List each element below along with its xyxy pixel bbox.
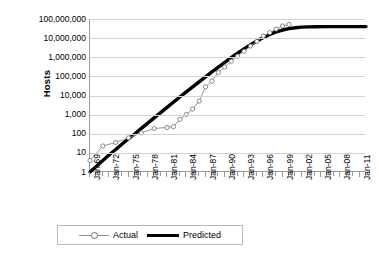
chart-legend: Actual Predicted bbox=[57, 225, 243, 245]
legend-actual-swatch-icon bbox=[79, 231, 109, 240]
x-axis-tick-label: Jan-05 bbox=[324, 154, 333, 180]
x-axis-tick-label: Jan-02 bbox=[305, 154, 314, 180]
x-axis-tick-label: Jan-81 bbox=[170, 154, 179, 180]
legend-predicted-swatch-icon bbox=[147, 231, 179, 240]
x-axis-tick-label: Jan-69 bbox=[93, 154, 102, 180]
x-axis-tick-label: Jan-08 bbox=[343, 154, 352, 180]
x-axis-tick-label: Jan-99 bbox=[286, 154, 295, 180]
legend-predicted-label: Predicted bbox=[183, 231, 221, 240]
hosts-growth-chart: Hosts 1101001,00010,000100,0001,000,0001… bbox=[0, 0, 379, 257]
x-axis-tick-label: Jan-11 bbox=[363, 155, 372, 180]
x-axis-tick-labels: Jan-69Jan-72Jan-75Jan-78Jan-81Jan-84Jan-… bbox=[0, 0, 379, 257]
legend-item-predicted: Predicted bbox=[147, 231, 221, 240]
x-axis-tick-label: Jan-84 bbox=[189, 154, 198, 180]
x-axis-tick-label: Jan-72 bbox=[112, 154, 121, 180]
x-axis-tick-label: Jan-93 bbox=[247, 154, 256, 180]
x-axis-tick-label: Jan-78 bbox=[151, 154, 160, 180]
legend-actual-label: Actual bbox=[113, 231, 138, 240]
legend-item-actual: Actual bbox=[79, 231, 138, 240]
x-axis-tick-label: Jan-75 bbox=[132, 154, 141, 180]
x-axis-tick-label: Jan-87 bbox=[209, 154, 218, 180]
x-axis-tick-label: Jan-90 bbox=[228, 154, 237, 180]
x-axis-tick-label: Jan-96 bbox=[266, 154, 275, 180]
